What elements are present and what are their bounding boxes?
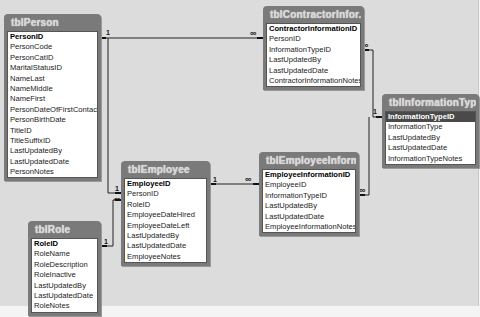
cardinality-one-label: 1	[213, 176, 217, 183]
field-row[interactable]: EmployeeID	[125, 179, 206, 189]
table-title[interactable]: tblRole	[31, 221, 98, 238]
field-row[interactable]: EmployeeInformationNotes	[263, 222, 355, 232]
field-row[interactable]: LastUpdatedBy	[267, 55, 360, 65]
field-row[interactable]: RoleID	[32, 239, 97, 249]
field-row[interactable]: NameLast	[8, 74, 97, 84]
field-row[interactable]: LastUpdatedBy	[8, 146, 97, 156]
field-row[interactable]: NameMiddle	[8, 84, 97, 94]
table-title[interactable]: tblPerson	[7, 14, 98, 31]
field-row[interactable]: PersonNotes	[8, 167, 97, 177]
field-row-selected[interactable]: InformationTypeID	[386, 112, 475, 122]
field-row[interactable]: EmployeeInformationID	[263, 170, 355, 180]
rel-infotype-contractor	[363, 50, 382, 117]
field-row[interactable]: TitleSuffixID	[8, 136, 97, 146]
table-title[interactable]: tblContractorInfor...	[266, 6, 361, 23]
field-row[interactable]: PersonID	[8, 32, 97, 42]
field-row[interactable]: PersonID	[125, 189, 206, 199]
field-list[interactable]: ContractorInformationID PersonID Informa…	[266, 23, 361, 87]
table-tblperson[interactable]: tblPerson PersonID PersonCode PersonCatI…	[4, 14, 101, 181]
cardinality-many-label: ∞	[359, 187, 365, 194]
table-tblemployeeinformation[interactable]: tblEmployeeInforma... EmployeeInformatio…	[259, 152, 359, 236]
field-row[interactable]: LastUpdatedDate	[267, 66, 360, 76]
table-title[interactable]: tblEmployeeInforma...	[262, 152, 356, 169]
field-row[interactable]: PersonDateOfFirstContact	[8, 105, 97, 115]
field-row[interactable]: MaritalStatusID	[8, 63, 97, 73]
field-row[interactable]: RoleDescription	[32, 260, 97, 270]
cardinality-one-label: 1	[104, 238, 108, 245]
field-list[interactable]: EmployeeID PersonID RoleID EmployeeDateH…	[124, 178, 207, 263]
field-list[interactable]: PersonID PersonCode PersonCatID MaritalS…	[7, 31, 98, 178]
field-list[interactable]: InformationTypeID InformationType LastUp…	[385, 111, 476, 165]
field-row[interactable]: LastUpdatedDate	[8, 157, 97, 167]
field-row[interactable]: LastUpdatedDate	[263, 212, 355, 222]
field-row[interactable]: InformationTypeNotes	[386, 154, 475, 164]
table-title[interactable]: tblEmployee	[124, 161, 207, 178]
field-row[interactable]: EmployeeID	[263, 180, 355, 190]
field-row[interactable]: PersonBirthDate	[8, 115, 97, 125]
table-title[interactable]: tblInformationType	[385, 94, 476, 111]
field-row[interactable]: RoleNotes	[32, 301, 97, 311]
field-row[interactable]: PersonCode	[8, 42, 97, 52]
cardinality-one-label: 1	[373, 108, 377, 115]
field-row[interactable]: PersonID	[267, 34, 360, 44]
field-row[interactable]: InformationType	[386, 122, 475, 132]
field-row[interactable]: EmployeeDateHired	[125, 210, 206, 220]
cardinality-many-label: ∞	[114, 196, 120, 203]
table-tblrole[interactable]: tblRole RoleID RoleName RoleDescription …	[28, 221, 101, 316]
field-row[interactable]: NameFirst	[8, 94, 97, 104]
field-row[interactable]: LastUpdatedBy	[32, 281, 97, 291]
field-row[interactable]: RoleName	[32, 249, 97, 259]
cardinality-many-label: ∞	[250, 30, 256, 37]
field-row[interactable]: InformationTypeID	[267, 45, 360, 55]
field-row[interactable]: LastUpdatedDate	[32, 291, 97, 301]
field-row[interactable]: LastUpdatedDate	[125, 241, 206, 251]
field-row[interactable]: InformationTypeID	[263, 191, 355, 201]
field-row[interactable]: EmployeeNotes	[125, 252, 206, 262]
table-tblinformationtype[interactable]: tblInformationType InformationTypeID Inf…	[382, 94, 479, 168]
field-row[interactable]: ContractorInformationID	[267, 24, 360, 34]
field-row[interactable]: LastUpdatedBy	[386, 133, 475, 143]
cardinality-one-label: 1	[115, 185, 119, 192]
table-tblemployee[interactable]: tblEmployee EmployeeID PersonID RoleID E…	[121, 161, 210, 266]
cardinality-one-label: 1	[106, 29, 110, 36]
field-row[interactable]: ContractorInformationNotes	[267, 76, 360, 86]
rel-person-employee	[108, 38, 121, 193]
field-row[interactable]: LastUpdatedBy	[125, 231, 206, 241]
field-row[interactable]: TitleID	[8, 126, 97, 136]
field-row[interactable]: EmployeeDateLeft	[125, 221, 206, 231]
field-row[interactable]: LastUpdatedDate	[386, 143, 475, 153]
cardinality-many-label: ∞	[245, 176, 251, 183]
field-row[interactable]: RoleID	[125, 200, 206, 210]
field-row[interactable]: PersonCatID	[8, 53, 97, 63]
field-row[interactable]: RoleInactive	[32, 270, 97, 280]
field-list[interactable]: EmployeeInformationID EmployeeID Informa…	[262, 169, 356, 233]
field-list[interactable]: RoleID RoleName RoleDescription RoleInac…	[31, 238, 98, 313]
field-row[interactable]: LastUpdatedBy	[263, 201, 355, 211]
table-tblcontractorinformation[interactable]: tblContractorInfor... ContractorInformat…	[263, 6, 364, 90]
rel-infotype-employeeinfo	[359, 117, 369, 195]
